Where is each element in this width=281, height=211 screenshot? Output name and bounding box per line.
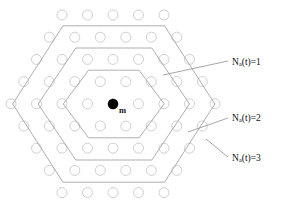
lattice-cell-circle (83, 188, 93, 198)
lattice-cell-circle (134, 99, 144, 109)
lattice-cell-circle (121, 32, 131, 42)
leader-line-2 (188, 118, 228, 132)
hexagonal-cluster-diagram: m Na(t)=1Na(t)=2Na(t)=3 (0, 0, 281, 211)
lattice-cell-circle (121, 121, 131, 131)
center-node-dot (108, 99, 118, 109)
lattice-cell-circle (57, 10, 67, 20)
lattice-cell-circle (95, 32, 105, 42)
lattice-cell-circle (95, 77, 105, 87)
lattice-cell-circle (134, 188, 144, 198)
annotation-argument: (t)=2 (242, 113, 261, 124)
annotation-argument: (t)=3 (242, 153, 261, 164)
lattice-cell-circle (134, 143, 144, 153)
center-marker-group: m (108, 99, 126, 115)
leader-line-1 (163, 61, 228, 75)
leader-line-3 (206, 139, 228, 157)
lattice-cell-circle (121, 165, 131, 175)
leader-line-group (163, 61, 228, 157)
annotation-label-3: Na(t)=3 (232, 153, 261, 164)
lattice-cell-circle (57, 188, 67, 198)
annotation-argument: (t)=1 (242, 57, 261, 68)
lattice-cell-circle (83, 10, 93, 20)
lattice-cell-circle (134, 10, 144, 20)
annotation-label-group: Na(t)=1Na(t)=2Na(t)=3 (232, 57, 261, 164)
lattice-cell-circle (172, 165, 182, 175)
lattice-cell-circle (159, 143, 169, 153)
lattice-cell-circle (159, 54, 169, 64)
lattice-cell-circle (108, 143, 118, 153)
lattice-cell-circle (134, 54, 144, 64)
lattice-cell-circle (146, 165, 156, 175)
center-node-label: m (119, 105, 126, 115)
lattice-cell-circle (70, 32, 80, 42)
lattice-cell-circle (32, 54, 42, 64)
lattice-cell-circle (70, 165, 80, 175)
lattice-cell-circle (70, 121, 80, 131)
lattice-cell-circle (70, 77, 80, 87)
lattice-cell-circle (108, 54, 118, 64)
lattice-cell-circle (95, 121, 105, 131)
lattice-cell-circle (121, 77, 131, 87)
figure-canvas: m Na(t)=1Na(t)=2Na(t)=3 (0, 0, 281, 211)
lattice-cell-circle (108, 10, 118, 20)
lattice-cell-circle (146, 32, 156, 42)
lattice-cell-circle (83, 99, 93, 109)
lattice-cell-circle (95, 165, 105, 175)
lattice-cell-circle (172, 32, 182, 42)
annotation-label-2: Na(t)=2 (232, 113, 261, 124)
lattice-cell-circle (83, 143, 93, 153)
annotation-label-1: Na(t)=1 (232, 57, 261, 68)
lattice-cell-circle (159, 10, 169, 20)
lattice-cell-circle (44, 32, 54, 42)
lattice-cell-circle (83, 54, 93, 64)
lattice-cell-circle (159, 188, 169, 198)
lattice-cell-circle (108, 188, 118, 198)
lattice-cell-circle (32, 143, 42, 153)
